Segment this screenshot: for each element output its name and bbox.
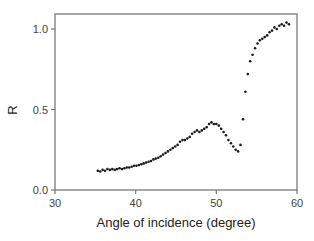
data-point [205, 126, 208, 129]
data-point [222, 131, 225, 134]
data-point [186, 137, 189, 140]
data-point [198, 131, 201, 134]
data-point [191, 132, 194, 135]
data-point [123, 167, 126, 170]
data-point [188, 136, 191, 139]
data-point [135, 165, 138, 168]
data-point [263, 36, 266, 39]
data-point [244, 91, 247, 94]
data-point [145, 161, 148, 164]
data-point [174, 145, 177, 148]
data-point [157, 157, 160, 160]
data-point [247, 73, 250, 76]
data-point [155, 157, 158, 160]
y-axis-title: R [5, 105, 20, 114]
data-point [162, 153, 165, 156]
data-point [140, 163, 143, 166]
data-point [237, 150, 240, 153]
data-point [210, 121, 213, 124]
data-point [278, 25, 281, 28]
data-point [288, 23, 291, 26]
data-point [106, 168, 109, 171]
data-point [251, 54, 254, 57]
data-point [126, 166, 129, 169]
data-point [167, 150, 170, 153]
data-point [113, 169, 116, 172]
data-point [213, 123, 216, 126]
data-point [268, 31, 271, 34]
data-point [159, 155, 162, 158]
data-point [208, 123, 211, 126]
data-point [230, 142, 233, 145]
y-tick-label: 0.5 [33, 104, 48, 116]
data-point [259, 39, 262, 42]
data-point [152, 158, 155, 161]
x-tick-label: 50 [210, 197, 222, 209]
data-point [227, 139, 230, 142]
data-point [172, 147, 175, 150]
data-point [215, 123, 218, 126]
x-axis-ticks: 30405060 [49, 190, 303, 209]
data-point [109, 169, 112, 172]
data-point [203, 128, 206, 131]
data-point [232, 145, 235, 148]
data-point [164, 152, 167, 155]
data-point [128, 166, 131, 169]
x-axis-title: Angle of incidence (degree) [97, 215, 256, 230]
data-point [266, 34, 269, 37]
y-axis-ticks: 0.00.51.0 [33, 23, 55, 196]
data-point [283, 25, 286, 28]
data-point [133, 165, 136, 168]
data-point [225, 134, 228, 137]
y-tick-label: 0.0 [33, 184, 48, 196]
data-point [142, 162, 145, 165]
x-tick-label: 40 [130, 197, 142, 209]
data-point [256, 42, 259, 45]
y-tick-label: 1.0 [33, 23, 48, 35]
data-point [242, 118, 245, 121]
data-point [130, 165, 133, 168]
data-point [239, 144, 242, 147]
data-point [280, 23, 283, 26]
reflectance-chart: 30405060 0.00.51.0 Angle of incidence (d… [0, 0, 314, 241]
data-point [111, 168, 114, 171]
data-point [261, 37, 264, 40]
data-point [147, 161, 150, 164]
data-point [193, 131, 196, 134]
data-point [184, 139, 187, 142]
data-point [218, 124, 221, 127]
data-point [176, 144, 179, 147]
data-point [150, 160, 153, 163]
data-point [271, 29, 274, 32]
data-point [254, 47, 257, 50]
data-point [285, 21, 288, 24]
data-point [116, 168, 119, 171]
data-point [249, 60, 252, 63]
data-point [121, 168, 124, 171]
data-point [99, 170, 102, 173]
data-point [220, 128, 223, 131]
data-point [273, 26, 276, 29]
data-point [118, 167, 121, 170]
x-tick-label: 30 [49, 197, 61, 209]
data-point [101, 169, 104, 172]
data-point [138, 164, 141, 167]
data-point [181, 139, 184, 142]
data-point [179, 140, 182, 143]
data-point [104, 169, 107, 172]
data-point [97, 169, 100, 172]
data-point [276, 28, 279, 31]
x-tick-label: 60 [291, 197, 303, 209]
data-point [169, 149, 172, 152]
data-point [234, 149, 237, 152]
data-point [196, 129, 199, 132]
data-point [201, 129, 204, 132]
